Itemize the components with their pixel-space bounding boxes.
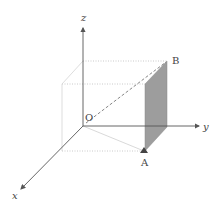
z-axis-label: z: [80, 12, 87, 23]
point-b-label: B: [172, 55, 179, 66]
shaded-panel: [145, 61, 167, 151]
origin-label: O: [85, 112, 93, 123]
x-axis: [21, 126, 83, 189]
coordinate-diagram: z y x O A B: [0, 0, 219, 209]
point-a-label: A: [140, 157, 149, 168]
x-axis-label: x: [12, 190, 18, 201]
y-axis-label: y: [202, 121, 209, 132]
